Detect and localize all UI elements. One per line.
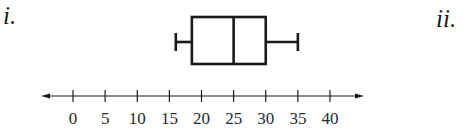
tick-label: 5: [101, 109, 110, 128]
number-line-axis: [41, 90, 364, 102]
interquartile-box: [192, 17, 266, 64]
axis-tick-labels: 0510152025303540: [69, 109, 339, 128]
tick-label: 20: [193, 109, 210, 128]
tick-label: 35: [289, 109, 306, 128]
box-plot-chart: 0510152025303540: [0, 0, 468, 134]
tick-label: 0: [69, 109, 78, 128]
right-arrow-icon: [355, 94, 364, 99]
left-arrow-icon: [41, 94, 50, 99]
tick-label: 15: [161, 109, 178, 128]
tick-label: 30: [257, 109, 274, 128]
tick-label: 10: [129, 109, 146, 128]
tick-label: 25: [225, 109, 242, 128]
tick-label: 40: [322, 109, 339, 128]
box-plot: [176, 17, 298, 64]
